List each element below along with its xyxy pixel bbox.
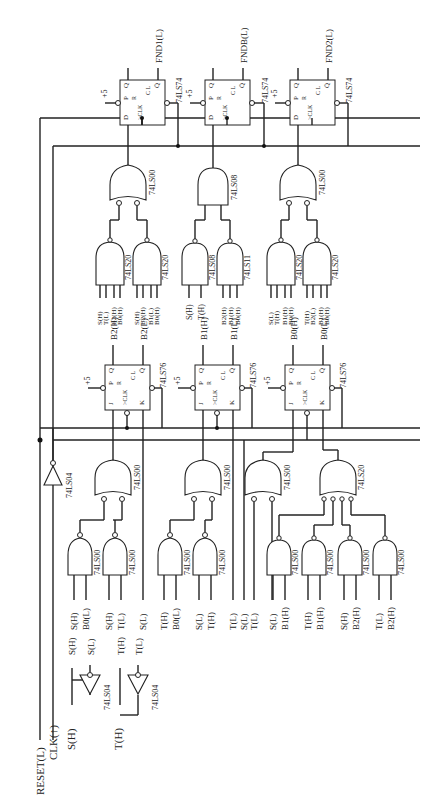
svg-text:J: J: [287, 402, 295, 405]
svg-text:Q̄: Q̄: [318, 368, 326, 373]
fndb-g1-in1-label: S(H): [185, 304, 194, 320]
b2-nand2-in1-label: S(H): [104, 612, 114, 630]
svg-text:P: P: [207, 96, 215, 100]
fnd2-label: FND2(L): [324, 29, 334, 63]
fndb-g1-in2-label: T(H): [197, 304, 206, 320]
svg-text:+5: +5: [270, 89, 279, 98]
b0-k-g1-in1-label: S(L): [268, 614, 278, 631]
fnd1-d-logic: 74LS00 74LS20 74LS20: [96, 165, 170, 298]
b1-nand1-in1-label: T(H): [159, 612, 169, 630]
fnd1-g2-in4-label: B0(H): [153, 306, 161, 325]
svg-text:74LS00: 74LS00: [183, 550, 192, 575]
fnd2-g1-in4-label: B0(H): [287, 306, 295, 325]
svg-text:74LS76: 74LS76: [159, 363, 168, 388]
fnd1-g1-in4-label: B0(H): [116, 306, 124, 325]
svg-text:+5: +5: [185, 89, 194, 98]
svg-text:74LS20: 74LS20: [124, 255, 133, 280]
svg-text:C L: C L: [145, 85, 151, 95]
svg-text:D: D: [292, 115, 300, 120]
svg-text:+5: +5: [100, 89, 109, 98]
svg-text:74LS74: 74LS74: [175, 78, 184, 103]
clk-label: CLK(↑): [47, 725, 60, 760]
b0-k-g3-in1-label: S(H): [339, 612, 349, 630]
svg-text:+5: +5: [173, 376, 182, 385]
b1-k-input-label: T(L): [228, 613, 238, 630]
t-l-out-label: T(L): [134, 638, 144, 655]
svg-text:Q̄: Q̄: [323, 83, 331, 88]
svg-text:Q̄: Q̄: [138, 368, 146, 373]
svg-text:74LS00: 74LS00: [318, 170, 327, 195]
svg-text:74LS20: 74LS20: [331, 255, 340, 280]
svg-text:K: K: [228, 400, 236, 405]
svg-text:Q: Q: [197, 368, 205, 373]
svg-text:74LS04: 74LS04: [151, 685, 160, 710]
b1-nand2-in1-label: S(L): [194, 614, 204, 631]
clk-line: [53, 146, 420, 740]
svg-text:74LS00: 74LS00: [326, 550, 335, 575]
t-h-out-label: T(H): [116, 637, 126, 655]
fnd2-g1-in2-label: T(H): [273, 310, 281, 325]
svg-text:Q: Q: [207, 83, 215, 88]
circuit-diagram: RESET(L) CLK(↑) S(H) T(H) 74LS04 S(H) S(…: [0, 0, 431, 797]
fndb-label: FNDB(L): [239, 27, 249, 63]
fndb-d-logic: 74LS08 74LS08 74LS11: [182, 168, 252, 298]
svg-text:C L: C L: [315, 85, 321, 95]
reset-label: RESET(L): [34, 747, 47, 795]
svg-text:74LS20: 74LS20: [161, 255, 170, 280]
fnd2-g2-in4-label: B0(H): [323, 306, 331, 325]
svg-text:P: P: [107, 381, 115, 385]
t-inverter: 74LS04: [120, 665, 160, 715]
s-inverter: 74LS04: [72, 665, 112, 710]
b0-k-g4-in1-label: T(L): [374, 613, 384, 630]
d-flipflop-fndb: D P R >CLK C L Q Q̄ +5 74LS74: [185, 68, 270, 146]
svg-text:D: D: [122, 115, 130, 120]
svg-text:74LS00: 74LS00: [93, 550, 102, 575]
svg-text:74LS76: 74LS76: [339, 363, 348, 388]
svg-text:74LS00: 74LS00: [291, 550, 300, 575]
fnd2-d-logic: 74LS00 74LS20 74LS20: [267, 165, 340, 298]
svg-text:74LS74: 74LS74: [345, 78, 354, 103]
svg-text:R: R: [301, 96, 307, 100]
svg-text:74LS08: 74LS08: [230, 175, 239, 200]
svg-text:J: J: [197, 402, 205, 405]
svg-text:Q̄: Q̄: [228, 368, 236, 373]
svg-text:74LS08: 74LS08: [208, 255, 217, 280]
b0-j-in2-label: T(L): [249, 613, 259, 630]
b2-nand2-in2-label: T(L): [116, 613, 126, 630]
svg-text:74LS00: 74LS00: [223, 465, 232, 490]
s-h-out-label: S(H): [67, 637, 77, 655]
b0-j-in1-label: S(L): [239, 614, 249, 631]
b2-j-logic: 74LS00 74LS00 74LS00: [68, 460, 142, 600]
b0-k-g2-in2-label: B1(H): [315, 607, 325, 630]
svg-text:J: J: [107, 402, 115, 405]
b2-nand1-in2-label: B0(L): [81, 608, 91, 630]
b2-k-input-label: S(L): [138, 614, 148, 631]
svg-text:P: P: [197, 381, 205, 385]
svg-text:K: K: [318, 400, 326, 405]
s-input-label: S(H): [65, 728, 78, 750]
svg-text:R: R: [296, 381, 302, 385]
svg-text:Q̄: Q̄: [153, 83, 161, 88]
b0-k-logic: 74LS20 74LS00 74LS00 74LS00 74LS00: [267, 440, 406, 600]
fnd1-label: FND1(L): [154, 29, 164, 63]
svg-text:74LS74: 74LS74: [261, 78, 270, 103]
svg-text:P: P: [287, 381, 295, 385]
svg-text:C L: C L: [220, 370, 226, 380]
svg-text:R: R: [216, 96, 222, 100]
svg-text:Q: Q: [287, 368, 295, 373]
b2-nand1-in1-label: S(H): [69, 612, 79, 630]
b0-k-g3-in2-label: B2(H): [351, 607, 361, 630]
t-input-label: T(H): [112, 728, 125, 750]
svg-text:74LS00: 74LS00: [283, 465, 292, 490]
svg-text:P: P: [122, 96, 130, 100]
b1-nand2-in2-label: T(H): [206, 612, 216, 630]
svg-text:74LS11: 74LS11: [243, 255, 252, 280]
svg-text:Q: Q: [292, 83, 300, 88]
b1-j-logic: 74LS00 74LS00 74LS00: [158, 460, 232, 600]
svg-text:>CLK: >CLK: [302, 389, 308, 405]
fndb-g2-in3-label: B0(H): [234, 306, 242, 325]
svg-text:>CLK: >CLK: [122, 389, 128, 405]
svg-text:K: K: [138, 400, 146, 405]
svg-text:>CLK: >CLK: [307, 104, 313, 120]
fnd1-g1-in2-label: T(L): [102, 311, 110, 325]
